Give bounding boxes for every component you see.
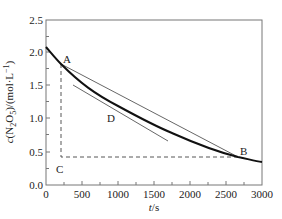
plot-frame bbox=[46, 20, 262, 185]
point-label-b: B bbox=[240, 145, 247, 157]
x-tick-1000: 1000 bbox=[107, 188, 130, 200]
y-tick-2.0: 2.0 bbox=[29, 46, 43, 58]
x-axis-label-unit: /s bbox=[152, 201, 159, 213]
point-label-a: A bbox=[63, 53, 71, 65]
x-tick-2000: 2000 bbox=[179, 188, 202, 200]
y-tick-1.0: 1.0 bbox=[29, 112, 43, 124]
point-label-d: D bbox=[107, 112, 115, 124]
y-axis-label-unit: )/(mol·L bbox=[3, 73, 16, 111]
secant-line-ab bbox=[61, 64, 238, 157]
y-axis-label-part: ) bbox=[3, 60, 16, 64]
x-tick-0: 0 bbox=[43, 188, 49, 200]
y-axis-label-part: (N bbox=[3, 127, 16, 139]
y-tick-2.5: 2.5 bbox=[29, 14, 43, 26]
y-axis bbox=[46, 37, 50, 169]
chart: 2.5 2.0 1.5 1.0 0.5 0.0 0 500 1000 1500 … bbox=[0, 0, 282, 219]
x-tick-labels: 0 500 1000 1500 2000 2500 3000 bbox=[43, 188, 273, 200]
x-tick-1500: 1500 bbox=[143, 188, 166, 200]
x-axis-label: t/s bbox=[149, 201, 159, 213]
y-axis-label-exp: −1 bbox=[2, 64, 11, 73]
x-tick-3000: 3000 bbox=[251, 188, 274, 200]
y-axis-label: c(N2O5)/(mol·L−1) bbox=[2, 60, 18, 143]
x-tick-2500: 2500 bbox=[215, 188, 238, 200]
concentration-curve bbox=[46, 47, 262, 162]
y-tick-0.0: 0.0 bbox=[29, 179, 43, 191]
y-axis-label-part: O bbox=[3, 115, 15, 123]
y-tick-labels: 2.5 2.0 1.5 1.0 0.5 0.0 bbox=[29, 14, 43, 191]
y-tick-1.5: 1.5 bbox=[29, 79, 43, 91]
point-label-c: C bbox=[56, 163, 63, 175]
x-tick-500: 500 bbox=[74, 188, 91, 200]
x-axis bbox=[64, 181, 244, 185]
y-tick-0.5: 0.5 bbox=[29, 146, 43, 158]
